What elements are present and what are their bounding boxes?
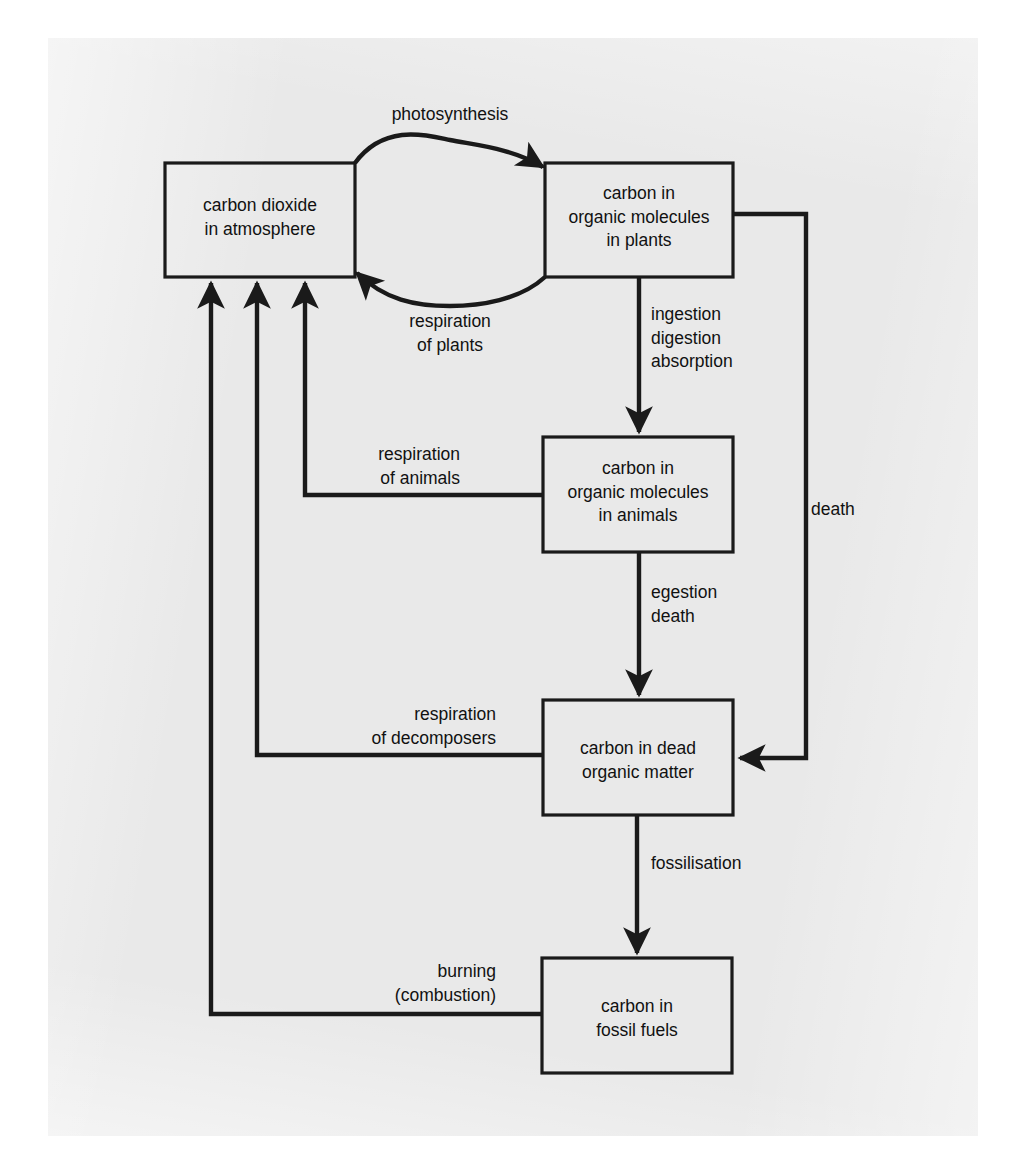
edge-burning-combustion-arrow[interactable] [211, 283, 542, 1014]
carbon-cycle-diagram [0, 0, 1011, 1168]
node-box-plants[interactable] [545, 163, 733, 277]
edge-label-photosynthesis: photosynthesis [350, 103, 550, 127]
diagram-page: carbon dioxide in atmosphere carbon in o… [0, 0, 1011, 1168]
edge-photosynthesis-arrow[interactable] [355, 134, 543, 167]
edge-paths [211, 134, 806, 1014]
edge-label-respiration-of-plants: respiration of plants [350, 310, 550, 357]
node-box-fossil-fuels[interactable] [542, 958, 732, 1073]
edge-label-respiration-of-animals: respiration of animals [260, 443, 460, 490]
edge-respiration-of-plants-arrow[interactable] [357, 273, 545, 306]
edge-label-respiration-of-decomposers: respiration of decomposers [276, 703, 496, 750]
node-box-dead-organic-matter[interactable] [543, 700, 733, 815]
edge-label-burning-combustion: burning (combustion) [286, 960, 496, 1007]
edge-label-ingestion-digestion-absorption: ingestion digestion absorption [651, 303, 831, 374]
node-box-animals[interactable] [543, 437, 733, 552]
edge-death-arrow[interactable] [733, 214, 806, 758]
edge-label-death: death [811, 498, 931, 522]
node-boxes [165, 163, 733, 1073]
edge-label-egestion-death: egestion death [651, 581, 831, 628]
node-box-co2[interactable] [165, 163, 355, 277]
edge-label-fossilisation: fossilisation [651, 852, 831, 876]
